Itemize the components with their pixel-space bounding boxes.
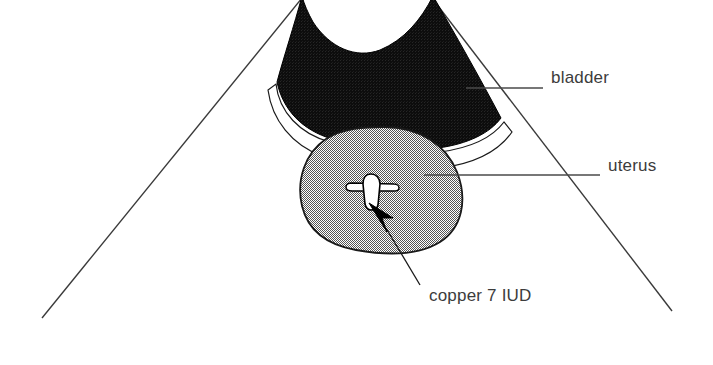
label-uterus: uterus — [608, 156, 656, 176]
illustration-canvas — [0, 0, 713, 365]
scan-cone-left-line — [42, 0, 302, 318]
label-copper-7-iud: copper 7 IUD — [429, 286, 532, 306]
ultrasound-illustration: bladder uterus copper 7 IUD — [0, 0, 713, 365]
label-bladder: bladder — [551, 68, 609, 88]
